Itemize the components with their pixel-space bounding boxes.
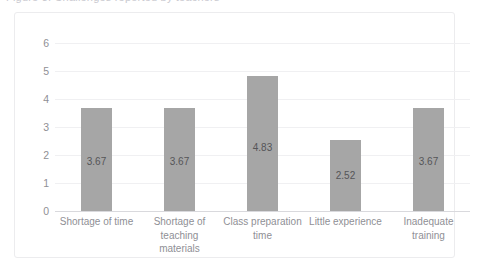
category-label-line: Shortage of time — [55, 215, 138, 229]
category-label-line: Inadequate — [387, 215, 470, 229]
bar-value-label-2: 4.83 — [247, 142, 278, 153]
category-label-line: Little experience — [304, 215, 387, 229]
chart-frame: 6543210 3.673.674.832.523.67 Shortage of… — [14, 12, 455, 258]
bar-3[interactable]: 2.52 — [330, 140, 361, 211]
category-label-2: Class preparationtime — [221, 215, 304, 242]
y-tick-label-4: 4 — [27, 94, 49, 104]
category-axis-labels: Shortage of timeShortage ofteachingmater… — [55, 215, 470, 271]
clipped-title-text: Figure 3. Challenges reported by teacher… — [6, 0, 220, 3]
plot-area: 3.673.674.832.523.67 — [55, 43, 470, 211]
gridline-5 — [55, 71, 470, 72]
gridline-0 — [55, 211, 470, 212]
category-label-line: materials — [138, 242, 221, 256]
category-label-4: Inadequatetraining — [387, 215, 470, 242]
y-axis: 6543210 — [25, 43, 49, 211]
bar-0[interactable]: 3.67 — [81, 108, 112, 211]
category-label-line: Shortage of — [138, 215, 221, 229]
y-tick-label-2: 2 — [27, 150, 49, 160]
category-label-line: teaching — [138, 229, 221, 243]
bar-value-label-3: 2.52 — [330, 170, 361, 181]
y-tick-label-5: 5 — [27, 66, 49, 76]
y-tick-label-3: 3 — [27, 122, 49, 132]
y-tick-label-0: 0 — [27, 206, 49, 216]
category-label-1: Shortage ofteachingmaterials — [138, 215, 221, 256]
bar-1[interactable]: 3.67 — [164, 108, 195, 211]
bar-value-label-4: 3.67 — [413, 156, 444, 167]
category-label-line: Class preparation — [221, 215, 304, 229]
bar-4[interactable]: 3.67 — [413, 108, 444, 211]
bar-value-label-0: 3.67 — [81, 156, 112, 167]
category-label-line: time — [221, 229, 304, 243]
category-label-0: Shortage of time — [55, 215, 138, 229]
bar-value-label-1: 3.67 — [164, 156, 195, 167]
clipped-title-strip: Figure 3. Challenges reported by teacher… — [0, 0, 482, 10]
category-label-line: training — [387, 229, 470, 243]
y-tick-label-1: 1 — [27, 178, 49, 188]
bar-2[interactable]: 4.83 — [247, 76, 278, 211]
y-tick-label-6: 6 — [27, 38, 49, 48]
category-label-3: Little experience — [304, 215, 387, 229]
gridline-6 — [55, 43, 470, 44]
